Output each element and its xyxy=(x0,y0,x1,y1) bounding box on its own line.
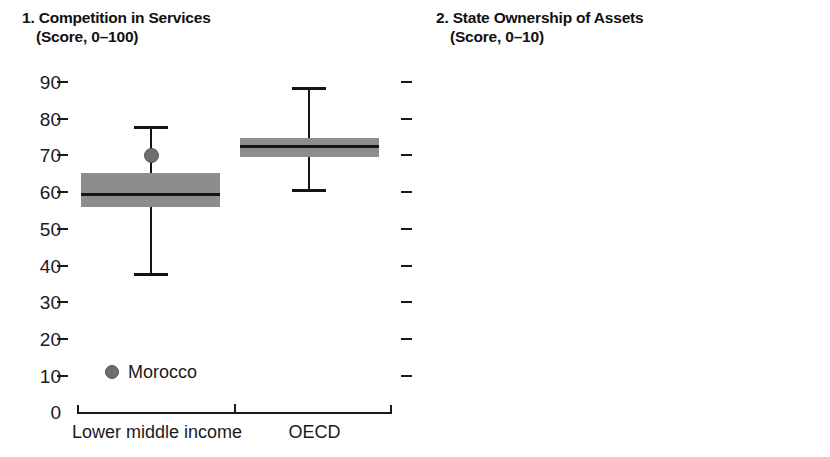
page-bottom-edge xyxy=(0,450,830,457)
morocco-marker xyxy=(144,148,159,163)
y-tick-40-right xyxy=(401,265,412,267)
panel-1-title-line2: (Score, 0–100) xyxy=(22,27,211,46)
y-tick-80-right xyxy=(401,118,412,120)
y-label-40: 40 xyxy=(1,257,61,276)
panel-2-title: 2. State Ownership of Assets (Score, 0–1… xyxy=(436,8,643,46)
panel-2-title-line1: 2. State Ownership of Assets xyxy=(436,8,643,27)
panel-2-title-line2: (Score, 0–10) xyxy=(436,27,643,46)
y-tick-10-right xyxy=(401,375,412,377)
y-tick-60-right xyxy=(401,191,412,193)
morocco-legend-dot-icon xyxy=(105,365,119,379)
whisker-cap-lower xyxy=(292,189,326,192)
median-line xyxy=(81,193,220,196)
y-tick-50-right xyxy=(401,228,412,230)
x-axis-end-tick-left xyxy=(77,405,79,413)
y-label-30: 30 xyxy=(1,293,61,312)
legend-label-morocco: Morocco xyxy=(128,363,197,381)
y-label-20: 20 xyxy=(1,330,61,349)
panel-state-ownership-of-assets: 2. State Ownership of Assets (Score, 0–1… xyxy=(415,0,830,457)
plot-area-panel-1: 0 90 80 70 60 50 40 30 20 xyxy=(77,60,392,420)
y-tick-70-right xyxy=(401,154,412,156)
y-label-50: 50 xyxy=(1,220,61,239)
y-axis-zero-label: 0 xyxy=(1,403,61,422)
y-label-70: 70 xyxy=(1,146,61,165)
x-label-oecd: OECD xyxy=(237,422,392,442)
x-label-lower-middle-income: Lower middle income xyxy=(72,422,240,442)
x-axis-category-divider xyxy=(234,404,236,413)
box-iqr xyxy=(81,173,220,207)
whisker-cap-upper xyxy=(292,87,326,90)
whisker-cap-upper xyxy=(134,126,168,129)
y-label-90: 90 xyxy=(1,73,61,92)
y-label-80: 80 xyxy=(1,110,61,129)
panel-competition-in-services: 1. Competition in Services (Score, 0–100… xyxy=(0,0,415,457)
x-axis-end-tick-right xyxy=(390,405,392,413)
y-tick-20-right xyxy=(401,338,412,340)
panel-1-title: 1. Competition in Services (Score, 0–100… xyxy=(22,8,211,46)
y-label-10: 10 xyxy=(1,367,61,386)
y-tick-30-right xyxy=(401,301,412,303)
y-label-60: 60 xyxy=(1,183,61,202)
legend-panel-1: Morocco xyxy=(105,363,197,381)
y-tick-90-right xyxy=(401,81,412,83)
whisker-cap-lower xyxy=(134,273,168,276)
median-line xyxy=(240,145,379,148)
panel-1-title-line1: 1. Competition in Services xyxy=(22,8,211,27)
